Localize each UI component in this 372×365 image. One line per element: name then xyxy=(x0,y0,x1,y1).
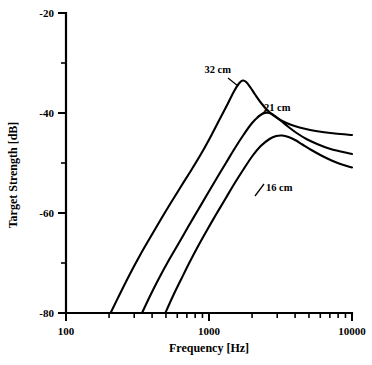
y-tick-label: -20 xyxy=(39,7,54,19)
y-axis-title: Target Strength [dB] xyxy=(6,122,20,229)
x-tick-label: 1000 xyxy=(198,325,221,337)
data-series-curves xyxy=(111,80,352,313)
series-annotation-21-cm: 21 cm xyxy=(264,102,291,113)
annotation-leader-lines xyxy=(228,78,267,196)
y-tick-label: -40 xyxy=(39,107,54,119)
chart-figure: -20-40-60-80 100100010000 32 cm21 cm16 c… xyxy=(0,0,372,365)
x-tick-label: 100 xyxy=(58,325,75,337)
x-axis-ticks xyxy=(66,313,352,321)
axes xyxy=(66,13,352,313)
series-curve-32-cm xyxy=(111,80,352,313)
leader-line-32cm xyxy=(228,78,238,86)
y-tick-label: -60 xyxy=(39,207,54,219)
y-axis-tick-labels: -20-40-60-80 xyxy=(39,7,54,319)
series-annotation-32-cm: 32 cm xyxy=(204,64,231,75)
y-axis-ticks xyxy=(58,13,66,313)
series-annotation-16-cm: 16 cm xyxy=(266,182,293,193)
target-strength-line-chart: -20-40-60-80 100100010000 32 cm21 cm16 c… xyxy=(0,0,372,365)
series-curve-16-cm xyxy=(165,135,352,313)
x-tick-label: 10000 xyxy=(338,325,366,337)
leader-line-16cm xyxy=(255,184,264,196)
x-axis-title: Frequency [Hz] xyxy=(169,341,249,355)
axis-lines xyxy=(66,13,352,313)
series-curve-21-cm xyxy=(142,113,352,313)
y-tick-label: -80 xyxy=(39,307,54,319)
x-axis-tick-labels: 100100010000 xyxy=(58,325,367,337)
